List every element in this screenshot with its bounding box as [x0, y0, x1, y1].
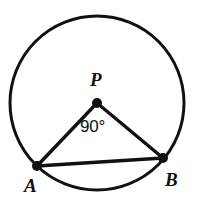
point-label-a: A [24, 176, 37, 195]
geometry-figure: P A B 90° [0, 0, 199, 207]
point-label-p: P [90, 70, 102, 89]
point-P-dot [92, 98, 102, 108]
segment-PB-radius [97, 103, 163, 158]
point-B-dot [158, 153, 168, 163]
central-angle-label: 90° [80, 118, 105, 135]
point-label-b: B [165, 170, 178, 189]
segment-AB-chord [37, 158, 163, 166]
point-A-dot [32, 161, 42, 171]
